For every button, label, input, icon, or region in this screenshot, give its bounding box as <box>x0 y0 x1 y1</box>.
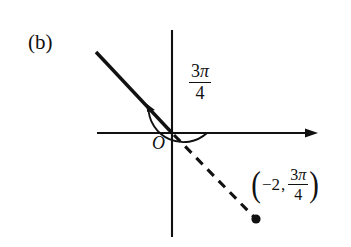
angle-arc-arrowhead <box>146 104 155 112</box>
angle-fraction: 3π 4 <box>189 62 211 104</box>
angle-measure-label: 3π 4 <box>189 62 211 104</box>
open-paren: ( <box>251 170 261 200</box>
terminal-side-ray <box>96 52 172 133</box>
theta-fraction-numerator: 3π <box>288 166 308 185</box>
polar-coordinate-figure: (b) O 3π 4 ( −2 , 3π 4 ) <box>0 0 351 247</box>
figure-canvas <box>0 0 351 247</box>
coordinate-comma: , <box>281 175 288 195</box>
panel-label: (b) <box>28 32 53 53</box>
x-axis-arrowhead <box>305 128 318 137</box>
origin-label: O <box>152 134 165 152</box>
theta-fraction-denominator: 4 <box>288 185 308 203</box>
close-paren: ) <box>310 170 320 200</box>
negative-radius-extension-dashed <box>174 135 254 217</box>
plotted-point-marker <box>251 214 260 223</box>
angle-fraction-denominator: 4 <box>189 83 211 103</box>
radius-value: −2 <box>262 175 281 195</box>
x-axis <box>97 128 318 137</box>
theta-fraction: 3π 4 <box>288 166 308 204</box>
angle-fraction-numerator: 3π <box>189 62 211 83</box>
point-coordinate-label: ( −2 , 3π 4 ) <box>250 166 320 204</box>
